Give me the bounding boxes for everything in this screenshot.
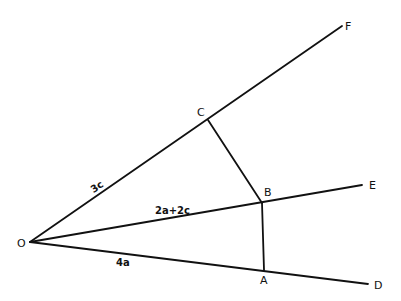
label-B: B <box>264 186 272 199</box>
label-A: A <box>260 274 268 287</box>
label-F: F <box>345 20 351 33</box>
label-vector-OA: 4a <box>116 257 130 268</box>
label-vector-OB: 2a+2c <box>155 205 190 216</box>
vector-diagram: O C B A F E D 3c 2a+2c 4a <box>0 0 401 301</box>
label-D: D <box>374 279 382 292</box>
segment-CB <box>208 120 262 203</box>
ray-OD <box>30 242 368 284</box>
label-C: C <box>197 106 205 119</box>
segment-BA <box>262 203 264 270</box>
label-O: O <box>17 237 26 250</box>
label-E: E <box>369 179 376 192</box>
ray-OE <box>30 185 362 242</box>
